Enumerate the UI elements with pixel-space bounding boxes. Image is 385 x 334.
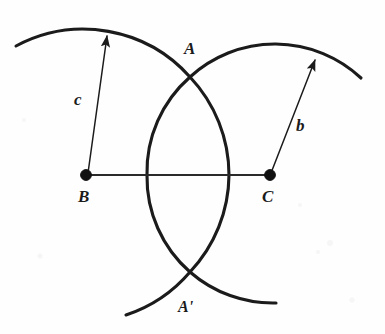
label-vertex-a: A	[183, 39, 195, 58]
vertex-dot-b	[81, 170, 92, 181]
label-vertex-a-prime: A'	[177, 298, 194, 315]
vertex-dot-c	[265, 170, 276, 181]
diagram-canvas: A A' B C b c	[0, 0, 385, 334]
label-side-c: c	[74, 90, 82, 109]
label-vertex-b: B	[77, 187, 89, 206]
geometry-figure: A A' B C b c	[0, 0, 385, 334]
label-vertex-c: C	[262, 187, 274, 206]
label-side-b: b	[296, 116, 305, 135]
